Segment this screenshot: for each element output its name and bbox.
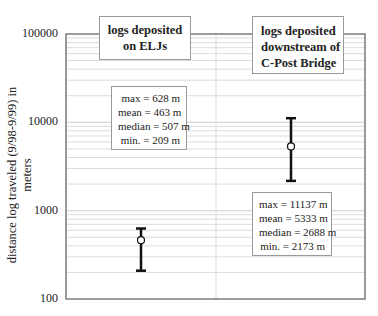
y-tick-100: 100 (0, 291, 58, 306)
stat-max: max = 628 m (118, 91, 180, 105)
category-label-line: C-Post Bridge (261, 55, 343, 71)
stats-box-cpost: max = 11137 m mean = 5333 m median = 268… (252, 192, 332, 256)
stat-mean: mean = 5333 m (259, 211, 325, 225)
stat-median: median = 507 m (118, 119, 180, 133)
mean-marker (288, 143, 295, 150)
category-label-line: on ELJs (100, 38, 190, 54)
stat-min: min. = 209 m (118, 133, 180, 147)
stat-min: min. = 2173 m (259, 239, 325, 253)
y-tick-100000: 100000 (0, 26, 58, 41)
category-label-cpost: logs deposited downstream of C-Post Brid… (252, 16, 344, 74)
category-label-line: logs deposited (100, 22, 190, 38)
stat-mean: mean = 463 m (118, 105, 180, 119)
error-bar-2 (286, 118, 296, 181)
category-label-elj: logs deposited on ELJs (99, 16, 191, 60)
mean-marker (138, 237, 145, 244)
category-label-line: logs deposited (261, 23, 343, 39)
stat-median: median = 2688 m (259, 225, 325, 239)
category-label-line: downstream of (261, 39, 343, 55)
stat-max: max = 11137 m (259, 197, 325, 211)
y-axis-label: distance log traveled (9/98-9/99) in met… (5, 70, 35, 280)
error-bar-1 (136, 229, 146, 271)
stats-box-elj: max = 628 m mean = 463 m median = 507 m … (111, 86, 187, 150)
